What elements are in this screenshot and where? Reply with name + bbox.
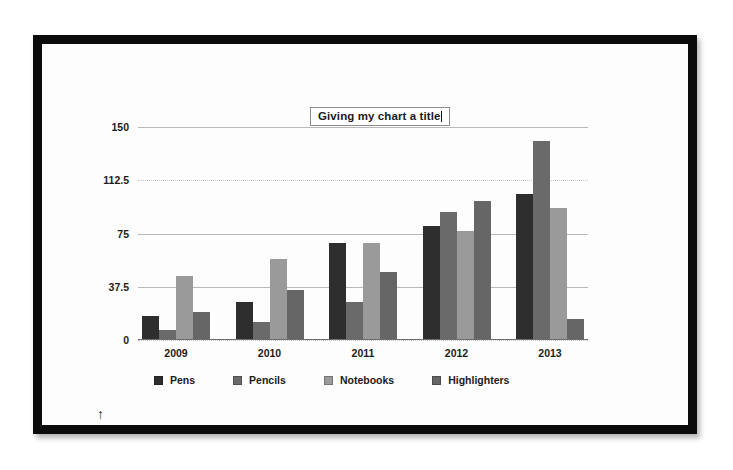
legend-swatch-icon xyxy=(154,376,163,385)
screenshot-page: Giving my chart a title 037.575112.5150 … xyxy=(0,0,733,470)
bar-notebooks-2012[interactable] xyxy=(457,231,474,340)
y-axis-tick-label: 112.5 xyxy=(103,174,129,186)
page-title: Giving my chart a title xyxy=(318,110,440,122)
x-axis-tick-label: 2012 xyxy=(445,347,468,359)
bar-highlighters-2012[interactable] xyxy=(474,201,491,340)
bar-pencils-2013[interactable] xyxy=(533,141,550,340)
legend-swatch-icon xyxy=(432,376,441,385)
legend-swatch-icon xyxy=(233,376,242,385)
bar-highlighters-2009[interactable] xyxy=(193,312,210,340)
x-axis-tick-label: 2011 xyxy=(352,347,375,359)
chart-canvas: Giving my chart a title 037.575112.5150 … xyxy=(42,44,688,425)
x-axis-tick-label: 2010 xyxy=(258,347,281,359)
bar-pencils-2010[interactable] xyxy=(253,322,270,340)
bar-pens-2009[interactable] xyxy=(142,316,159,340)
bar-notebooks-2011[interactable] xyxy=(363,243,380,340)
x-axis-tick-label: 2013 xyxy=(538,347,561,359)
bar-pencils-2011[interactable] xyxy=(346,302,363,340)
bar-pens-2012[interactable] xyxy=(423,226,440,340)
x-axis-tick-label: 2009 xyxy=(164,347,187,359)
legend-item-pencils[interactable]: Pencils xyxy=(233,374,286,386)
text-caret-icon xyxy=(441,111,442,122)
bar-pens-2010[interactable] xyxy=(236,302,253,340)
bar-pens-2011[interactable] xyxy=(329,243,346,340)
bar-group: 2011 xyxy=(329,127,397,340)
bar-pens-2013[interactable] xyxy=(516,194,533,340)
y-axis-tick-label: 75 xyxy=(117,228,129,240)
chart-legend: PensPencilsNotebooksHighlighters xyxy=(154,374,614,386)
legend-label: Notebooks xyxy=(340,374,394,386)
y-axis-tick-label: 0 xyxy=(123,334,129,346)
legend-label: Pencils xyxy=(249,374,286,386)
x-axis-line xyxy=(138,339,588,340)
bar-highlighters-2013[interactable] xyxy=(567,319,584,340)
plot-area: 037.575112.5150 20092010201120122013 xyxy=(138,127,588,340)
chart-title-edit-box[interactable]: Giving my chart a title xyxy=(310,107,450,126)
legend-swatch-icon xyxy=(324,376,333,385)
y-axis-tick-label: 37.5 xyxy=(109,281,129,293)
bar-pencils-2012[interactable] xyxy=(440,212,457,340)
legend-item-highlighters[interactable]: Highlighters xyxy=(432,374,509,386)
legend-item-pens[interactable]: Pens xyxy=(154,374,195,386)
y-axis-tick-label: 150 xyxy=(111,121,129,133)
bar-notebooks-2010[interactable] xyxy=(270,259,287,340)
bar-highlighters-2011[interactable] xyxy=(380,272,397,340)
text-cursor-marker-icon: ↑ xyxy=(97,407,104,422)
legend-label: Pens xyxy=(170,374,195,386)
legend-label: Highlighters xyxy=(448,374,509,386)
bar-group: 2013 xyxy=(516,127,584,340)
bar-group: 2010 xyxy=(236,127,304,340)
bar-notebooks-2009[interactable] xyxy=(176,276,193,340)
bar-group: 2012 xyxy=(423,127,491,340)
bar-groups: 20092010201120122013 xyxy=(138,127,588,340)
gridline xyxy=(138,340,588,341)
bar-highlighters-2010[interactable] xyxy=(287,290,304,340)
chart-frame: Giving my chart a title 037.575112.5150 … xyxy=(33,35,697,434)
bar-notebooks-2013[interactable] xyxy=(550,208,567,340)
legend-item-notebooks[interactable]: Notebooks xyxy=(324,374,394,386)
bar-group: 2009 xyxy=(142,127,210,340)
